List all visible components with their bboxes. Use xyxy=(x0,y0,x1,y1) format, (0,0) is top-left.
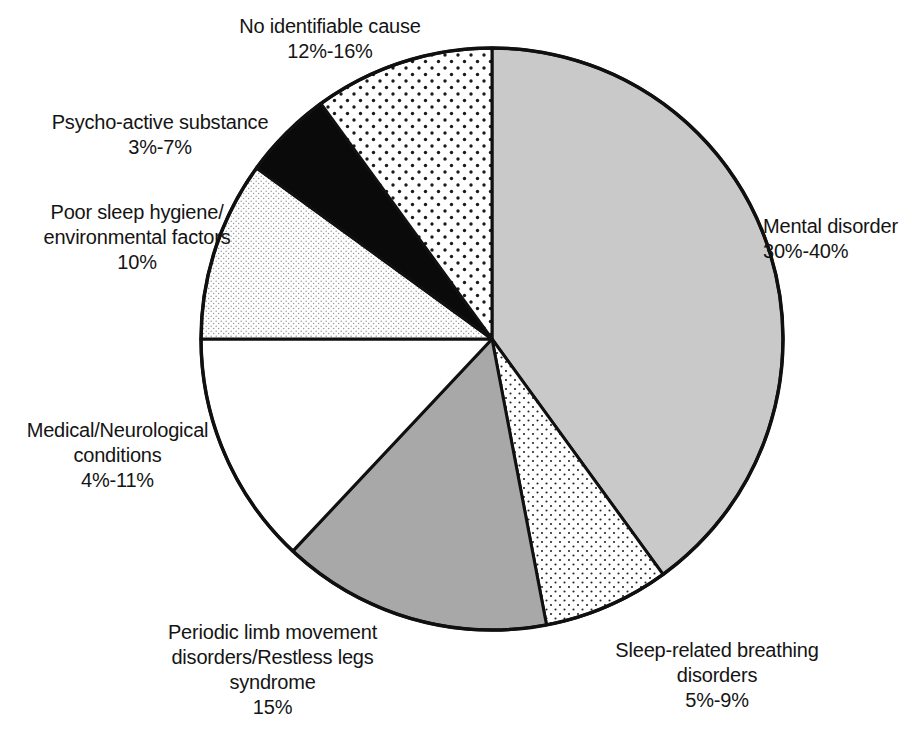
pie-slices xyxy=(201,48,783,630)
slice-label-mental-disorder: Mental disorder 30%-40% xyxy=(763,214,917,264)
slice-label-no-identifiable-cause: No identifiable cause 12%-16% xyxy=(205,14,455,64)
slice-label-periodic-limb-movement: Periodic limb movement disorders/Restles… xyxy=(145,620,400,720)
slice-label-medical-neurological: Medical/Neurological conditions 4%-11% xyxy=(10,418,225,493)
slice-label-psycho-active-substance: Psycho-active substance 3%-7% xyxy=(40,110,280,160)
pie-chart-figure: No identifiable cause 12%-16% Psycho-act… xyxy=(0,0,917,733)
slice-label-poor-sleep-hygiene: Poor sleep hygiene/ environmental factor… xyxy=(22,200,252,275)
slice-label-sleep-related-breathing: Sleep-related breathing disorders 5%-9% xyxy=(607,638,827,713)
